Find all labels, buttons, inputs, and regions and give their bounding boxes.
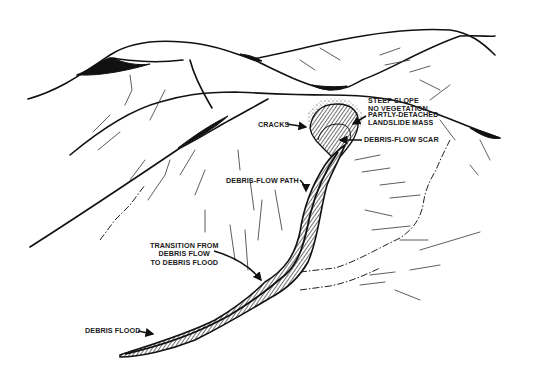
slope-stroke <box>380 182 405 185</box>
slope-stroke <box>395 290 420 300</box>
slope-stroke <box>275 190 282 230</box>
debris-flow-diagram: STEEP SLOPE NO VEGETATION CRACKS PARTLY-… <box>0 0 533 375</box>
path-arrow <box>300 180 306 191</box>
transition-arrow <box>214 251 261 280</box>
slope-stroke <box>365 210 392 216</box>
slope-stroke <box>238 150 240 170</box>
slope-stroke <box>245 230 248 270</box>
label-partly-detached-landslide-mass: PARTLY-DETACHED LANDSLIDE MASS <box>368 111 438 128</box>
label-cracks: CRACKS <box>258 121 289 129</box>
cracks-arrow <box>287 124 306 127</box>
slope-stroke <box>300 60 315 70</box>
slope-stroke <box>470 165 478 175</box>
slope-stroke <box>370 272 395 275</box>
slope-stroke <box>420 80 440 90</box>
label-debris-flow-scar: DEBRIS-FLOW SCAR <box>364 136 439 144</box>
slope-stroke <box>230 225 235 260</box>
left-front-ridge <box>30 99 268 247</box>
slope-stroke <box>420 232 480 250</box>
label-transition: TRANSITION FROM DEBRIS FLOW TO DEBRIS FL… <box>150 242 219 267</box>
label-debris-flow-path: DEBRIS-FLOW PATH <box>226 177 299 185</box>
slope-stroke <box>93 115 110 132</box>
slope-stroke <box>148 160 170 200</box>
dash-dot-lines <box>100 140 450 290</box>
slope-stroke <box>362 168 390 172</box>
slope-stroke <box>125 75 132 105</box>
slope-stroke <box>410 66 430 72</box>
landscape-illustration <box>0 0 533 375</box>
dash-dot-line <box>300 268 380 290</box>
slope-stroke <box>380 48 400 55</box>
slope-stroke <box>430 85 450 100</box>
slope-stroke <box>360 282 385 285</box>
back-ridge-left-shoulder <box>252 36 495 90</box>
gully-left <box>190 60 212 108</box>
slope-stroke <box>258 200 262 240</box>
front-ridge-patch <box>178 116 228 148</box>
slope-stroke <box>410 265 440 270</box>
dash-dot-line <box>100 185 145 240</box>
slope-stroke <box>440 120 455 140</box>
slope-stroke <box>480 140 490 160</box>
label-debris-flood: DEBRIS FLOOD <box>85 327 141 335</box>
slope-stroke <box>372 226 410 230</box>
shaded-patches <box>80 54 500 148</box>
right-edge-patch <box>470 128 500 139</box>
slope-stroke <box>390 195 420 198</box>
slope-stroke <box>195 170 205 195</box>
slope-stroke <box>98 132 120 150</box>
slope-stroke <box>180 150 195 175</box>
slope-stroke <box>320 48 340 60</box>
slope-stroke <box>355 155 380 160</box>
